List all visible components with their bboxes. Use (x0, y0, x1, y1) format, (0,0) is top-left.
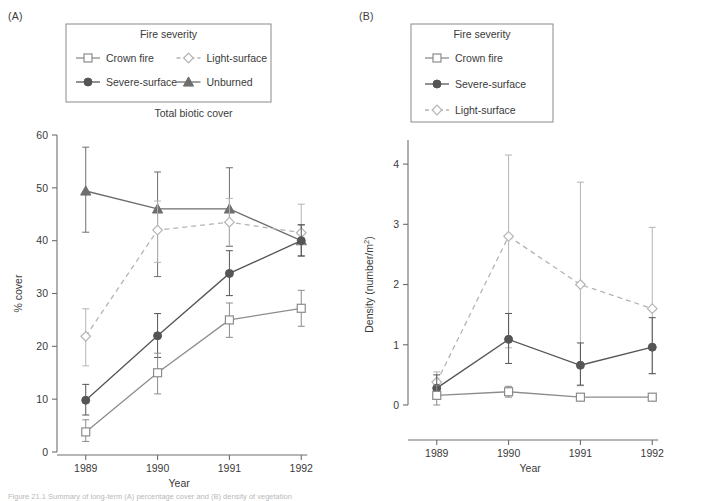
x-tick-label: 1991 (569, 447, 593, 459)
y-tick-label: 30 (36, 287, 48, 299)
data-point (648, 393, 656, 401)
data-point (433, 391, 441, 399)
panel-b: (B) Fire severityCrown fireSevere-surfac… (351, 0, 702, 501)
x-tick-label: 1991 (218, 462, 242, 474)
data-point (82, 428, 90, 436)
legend-marker-open-square (84, 54, 92, 62)
series-line (86, 308, 302, 432)
panel-b-plot: Fire severityCrown fireSevere-surfaceLig… (351, 0, 702, 501)
y-tick-label: 50 (36, 182, 48, 194)
series-line (86, 241, 302, 401)
legend-label: Severe-surface (106, 76, 177, 88)
series-line (437, 339, 653, 388)
figure-caption: Figure 21.1 Summary of long-term (A) per… (8, 492, 292, 501)
series-light-surface (432, 155, 657, 392)
y-tick-label: 40 (36, 234, 48, 246)
x-tick-label: 1989 (425, 447, 449, 459)
data-point (647, 304, 657, 314)
data-point (81, 331, 91, 341)
figure-root: (A) Fire severityCrown fireLight-surface… (0, 0, 702, 501)
data-point (81, 186, 91, 195)
axes: 01020304050601989199019911992Year% cover (12, 129, 313, 489)
data-point (82, 396, 90, 404)
series-crown-fire (433, 385, 657, 405)
data-point (297, 237, 305, 245)
legend-label: Unburned (207, 76, 253, 88)
panel-a: (A) Fire severityCrown fireLight-surface… (0, 0, 351, 501)
legend: Fire severityCrown fireSevere-surfaceLig… (411, 24, 553, 122)
x-axis-title: Year (520, 462, 542, 474)
data-point (154, 332, 162, 340)
data-point (225, 217, 235, 227)
legend-label: Light-surface (455, 104, 516, 116)
series-line (86, 222, 302, 336)
data-point (505, 335, 513, 343)
data-point (505, 388, 513, 396)
legend-label: Crown fire (106, 52, 154, 64)
legend-marker-filled-circle (84, 78, 92, 86)
data-point (576, 280, 586, 290)
legend-title: Fire severity (140, 28, 198, 40)
y-tick-label: 0 (42, 446, 48, 458)
data-point (154, 369, 162, 377)
legend-marker-open-square (433, 54, 441, 62)
legend-marker-filled-circle (433, 80, 441, 88)
legend-title: Fire severity (453, 28, 511, 40)
series-severe-surface (433, 313, 657, 397)
series-line (437, 236, 653, 382)
x-tick-label: 1989 (74, 462, 98, 474)
y-tick-label: 4 (393, 158, 399, 170)
legend-label: Light-surface (207, 52, 268, 64)
x-tick-label: 1992 (290, 462, 314, 474)
y-tick-label: 3 (393, 218, 399, 230)
y-tick-label: 20 (36, 340, 48, 352)
data-point (297, 304, 305, 312)
data-point (225, 316, 233, 324)
series-line (437, 392, 653, 397)
x-axis-title: Year (169, 477, 191, 489)
y-tick-label: 60 (36, 129, 48, 141)
data-point (576, 361, 584, 369)
legend: Fire severityCrown fireLight-surfaceSeve… (66, 24, 271, 102)
y-tick-label: 2 (393, 278, 399, 290)
y-axis-title: Density (number/m2) (362, 236, 375, 332)
y-tick-label: 1 (393, 339, 399, 351)
series-crown-fire (82, 290, 306, 441)
y-tick-label: 0 (393, 399, 399, 411)
data-point (153, 225, 163, 235)
axes: 012341989199019911992YearDensity (number… (362, 140, 664, 474)
legend-label: Severe-surface (455, 78, 526, 90)
series-unburned (81, 147, 307, 276)
series-line (86, 191, 302, 241)
data-point (225, 269, 233, 277)
data-point (648, 343, 656, 351)
y-axis-title: % cover (12, 274, 24, 312)
series-light-surface (81, 198, 306, 365)
x-tick-label: 1990 (497, 447, 521, 459)
x-tick-label: 1992 (641, 447, 665, 459)
series-severe-surface (82, 225, 306, 415)
x-tick-label: 1990 (146, 462, 170, 474)
data-point (576, 393, 584, 401)
plot-title: Total biotic cover (154, 107, 233, 119)
panel-a-plot: Fire severityCrown fireLight-surfaceSeve… (0, 0, 351, 501)
legend-label: Crown fire (455, 52, 503, 64)
y-tick-label: 10 (36, 393, 48, 405)
data-point (504, 232, 514, 242)
